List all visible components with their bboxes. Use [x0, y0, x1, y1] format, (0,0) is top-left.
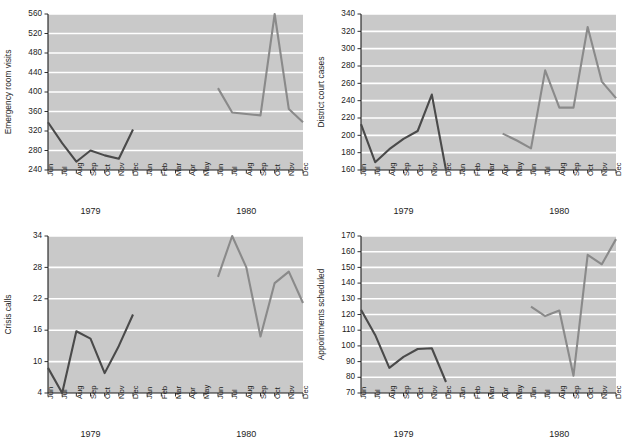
x-tick-label: Aug — [245, 162, 254, 176]
y-axis-title: Emergency room visits — [3, 50, 13, 135]
x-tick-label: Nov — [600, 162, 609, 176]
year-label: 1980 — [236, 429, 256, 439]
y-tick-label: 160 — [341, 247, 355, 256]
y-tick-label: 560 — [28, 9, 42, 18]
y-tick-label: 4 — [37, 388, 42, 397]
x-tick-label: Jun — [359, 164, 368, 176]
y-tick-label: 80 — [346, 372, 356, 381]
x-tick-label: Aug — [245, 385, 254, 399]
y-tick-label: 400 — [28, 87, 42, 96]
x-tick-label: Dec — [301, 162, 310, 176]
x-tick-label: Oct — [586, 163, 595, 176]
y-tick-label: 70 — [346, 388, 356, 397]
x-tick-label: Jul — [373, 389, 382, 399]
y-tick-label: 16 — [33, 325, 43, 334]
y-tick-label: 320 — [28, 126, 42, 135]
y-tick-label: 120 — [341, 310, 355, 319]
x-tick-label: Dec — [614, 385, 623, 399]
y-tick-label: 340 — [341, 9, 355, 18]
x-tick-label: Nov — [117, 385, 126, 399]
x-tick-label: Mar — [174, 162, 183, 176]
year-label: 1980 — [549, 429, 569, 439]
x-tick-label: Oct — [273, 386, 282, 399]
y-axis-title: Appointments scheduled — [316, 268, 326, 360]
x-tick-label: Jul — [373, 166, 382, 176]
year-label: 1980 — [236, 206, 256, 216]
y-axis-title: Crisis calls — [3, 294, 13, 334]
x-tick-label: Feb — [160, 386, 169, 399]
year-label: 1979 — [80, 206, 100, 216]
x-tick-label: Nov — [600, 385, 609, 399]
x-tick-label: Oct — [103, 386, 112, 399]
x-tick-label: Jun — [46, 164, 55, 176]
x-tick-label: Nov — [287, 162, 296, 176]
y-tick-label: 90 — [346, 357, 356, 366]
chart-appointments-scheduled: 708090100110120130140150160170JunJulAugS… — [313, 222, 626, 445]
plot-area — [361, 14, 616, 170]
x-tick-label: Aug — [388, 162, 397, 176]
panel-appointments-scheduled: 708090100110120130140150160170JunJulAugS… — [313, 222, 626, 444]
x-tick-label: May — [515, 384, 524, 399]
x-tick-label: Dec — [614, 162, 623, 176]
y-tick-label: 34 — [33, 231, 43, 240]
x-tick-label: Jun — [46, 387, 55, 399]
y-tick-label: 200 — [341, 131, 355, 140]
x-tick-label: Jun — [529, 387, 538, 399]
y-tick-label: 10 — [33, 357, 43, 366]
x-tick-label: Aug — [558, 385, 567, 399]
x-tick-label: Sep — [259, 162, 268, 176]
x-tick-label: Aug — [558, 162, 567, 176]
x-tick-label: Nov — [117, 162, 126, 176]
y-tick-label: 150 — [341, 263, 355, 272]
x-tick-label: Dec — [444, 385, 453, 399]
x-tick-label: Feb — [473, 386, 482, 399]
x-tick-label: Feb — [473, 163, 482, 176]
panel-crisis-calls: 41016222834JunJulAugSepOctNovDecJanFebMa… — [0, 222, 313, 444]
x-tick-label: Dec — [131, 385, 140, 399]
x-tick-label: Dec — [131, 162, 140, 176]
x-tick-label: Dec — [301, 385, 310, 399]
x-tick-label: Sep — [89, 385, 98, 399]
x-tick-label: Jul — [543, 166, 552, 176]
x-tick-label: Sep — [402, 385, 411, 399]
y-tick-label: 480 — [28, 48, 42, 57]
x-tick-label: May — [202, 161, 211, 176]
y-tick-label: 320 — [341, 27, 355, 36]
y-tick-label: 160 — [341, 165, 355, 174]
x-tick-label: Jun — [359, 387, 368, 399]
x-tick-label: Mar — [174, 385, 183, 399]
x-tick-label: Nov — [430, 385, 439, 399]
y-tick-label: 130 — [341, 294, 355, 303]
x-tick-label: Oct — [416, 163, 425, 176]
y-tick-label: 22 — [33, 294, 43, 303]
x-tick-label: Jan — [458, 387, 467, 399]
x-tick-label: Apr — [501, 387, 510, 399]
y-tick-label: 280 — [28, 146, 42, 155]
x-tick-label: Jul — [230, 166, 239, 176]
chart-district-court-cases: 160180200220240260280300320340JunJulAugS… — [313, 0, 626, 222]
x-tick-label: Aug — [75, 385, 84, 399]
x-tick-label: Sep — [572, 162, 581, 176]
x-tick-label: Jul — [230, 389, 239, 399]
x-tick-label: Feb — [160, 163, 169, 176]
x-tick-label: Nov — [430, 162, 439, 176]
y-tick-label: 260 — [341, 79, 355, 88]
year-label: 1979 — [393, 206, 413, 216]
x-tick-label: Jan — [145, 387, 154, 399]
x-tick-label: Oct — [103, 163, 112, 176]
x-tick-label: Mar — [487, 162, 496, 176]
x-tick-label: May — [515, 161, 524, 176]
y-tick-label: 360 — [28, 107, 42, 116]
year-label: 1979 — [393, 429, 413, 439]
y-axis-title: District court cases — [316, 57, 326, 128]
y-tick-label: 520 — [28, 29, 42, 38]
x-tick-label: Sep — [259, 385, 268, 399]
panel-emergency-room-visits: 240280320360400440480520560JunJulAugSepO… — [0, 0, 313, 222]
y-tick-label: 440 — [28, 68, 42, 77]
chart-grid: 240280320360400440480520560JunJulAugSepO… — [0, 0, 626, 445]
x-tick-label: Nov — [287, 385, 296, 399]
x-tick-label: Apr — [501, 164, 510, 176]
x-tick-label: Sep — [402, 162, 411, 176]
y-tick-label: 280 — [341, 61, 355, 70]
y-tick-label: 140 — [341, 278, 355, 287]
